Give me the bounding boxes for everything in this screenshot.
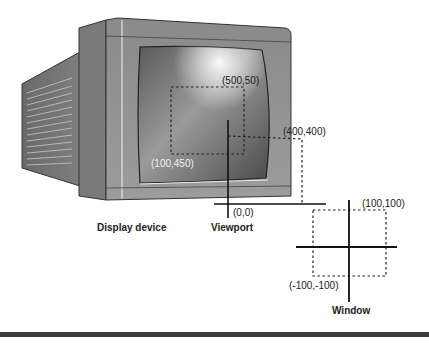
caption-window: Window xyxy=(332,305,370,316)
label-window-bottom-left: (-100,-100) xyxy=(289,280,338,291)
monitor-bezel-side xyxy=(79,20,106,200)
label-viewport-bottom-left: (100,450) xyxy=(151,158,194,169)
caption-display-device: Display device xyxy=(97,222,167,233)
viewport-window-diagram: (500,50) (100,450) (400,400) (0,0) (100,… xyxy=(0,0,429,345)
label-viewport-top-right: (500,50) xyxy=(222,75,259,86)
label-viewport-corner: (400,400) xyxy=(283,126,326,137)
monitor-back-housing xyxy=(22,52,80,186)
label-window-top-right: (100,100) xyxy=(362,198,405,209)
caption-viewport: Viewport xyxy=(211,222,254,233)
monitor-illustration xyxy=(22,18,291,200)
bottom-rule xyxy=(0,332,429,337)
label-viewport-origin: (0,0) xyxy=(233,207,254,218)
